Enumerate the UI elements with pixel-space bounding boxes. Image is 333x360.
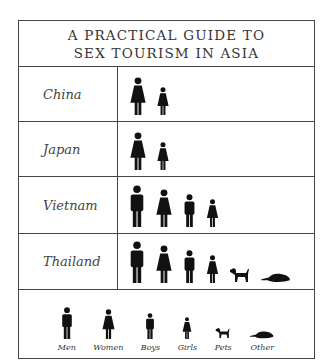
girl-icon [156,87,170,115]
platypus-icon [260,272,292,283]
man-icon [61,307,73,339]
table-row-china: China [19,67,314,122]
title-line-1: A PRACTICAL GUIDE TO [68,26,266,44]
row-icons [118,234,314,289]
infographic-frame: A PRACTICAL GUIDE TO SEX TOURISM IN ASIA… [18,20,315,359]
platypus-icon [249,330,275,339]
legend-item-girls: Girls [178,317,197,352]
man-icon [129,185,145,227]
row-icons [118,177,314,233]
legend-label: Other [250,343,273,352]
woman-icon [154,189,174,227]
legend-item-other: Other [249,330,275,352]
legend-label: Girls [178,343,197,352]
man-icon [129,241,145,283]
woman-icon [154,245,174,283]
dog-icon [229,267,251,283]
girl-icon [181,317,193,339]
legend-item-women: Women [93,309,123,352]
legend-item-men: Men [58,307,76,352]
woman-icon [129,132,147,170]
legend-item-boys: Boys [141,313,160,352]
boy-icon [183,250,196,283]
title-line-2: SEX TOURISM IN ASIA [74,44,260,62]
boy-icon [183,194,196,227]
page-title: A PRACTICAL GUIDE TO SEX TOURISM IN ASIA [19,21,314,67]
boy-icon [145,313,155,339]
dog-icon [215,327,231,339]
row-icons [118,67,314,121]
girl-icon [156,142,170,170]
girl-icon [205,255,220,283]
woman-icon [129,77,147,115]
legend-label: Men [58,343,76,352]
legend-label: Boys [141,343,160,352]
legend: Men Women Boys Girls Pets Other [19,290,314,358]
table-row-thailand: Thailand [19,234,314,290]
legend-label: Women [93,343,123,352]
woman-icon [101,309,116,339]
row-label: China [19,67,118,121]
row-label: Thailand [19,234,118,289]
table-row-japan: Japan [19,122,314,177]
legend-label: Pets [215,343,232,352]
girl-icon [205,199,220,227]
row-label: Vietnam [19,177,118,233]
row-label: Japan [19,122,118,176]
row-icons [118,122,314,176]
legend-item-pets: Pets [215,327,232,352]
table-row-vietnam: Vietnam [19,177,314,234]
